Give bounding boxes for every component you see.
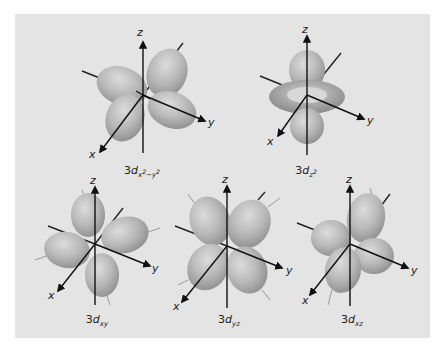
caption-dz2: 3dz2: [295, 164, 317, 179]
x-axis-label: x: [47, 289, 55, 302]
caption-dyz: 3dyz: [218, 313, 240, 328]
y-axis-label: y: [151, 262, 159, 275]
y-axis-label: y: [207, 116, 215, 129]
x-axis-label: x: [172, 300, 180, 313]
caption-dxz: 3dxz: [341, 313, 363, 328]
orbital-dx2-y2: z y x: [82, 26, 215, 161]
z-axis-label: z: [221, 173, 228, 186]
orbital-dz2: z y x: [260, 23, 374, 155]
z-axis-label: z: [345, 173, 352, 186]
orbital-dyz: z y x: [172, 173, 293, 313]
z-axis-label: z: [89, 174, 96, 187]
y-axis-label: y: [410, 264, 418, 277]
x-axis-label: x: [301, 294, 309, 307]
y-axis-label: y: [285, 264, 293, 277]
y-axis-label: y: [366, 114, 374, 127]
caption-dx2-y2: 3dx2−y2: [124, 164, 160, 179]
orbital-dxy: z y x: [35, 174, 160, 305]
x-axis-label: x: [88, 148, 96, 161]
z-axis-label: z: [136, 26, 143, 39]
x-axis-label: x: [266, 135, 274, 148]
z-axis-label: z: [301, 23, 308, 36]
caption-dxy: 3dxy: [86, 313, 108, 328]
orbital-diagram: z y x z y x z y x: [0, 0, 448, 353]
orbital-dxz: z y x: [297, 173, 418, 307]
